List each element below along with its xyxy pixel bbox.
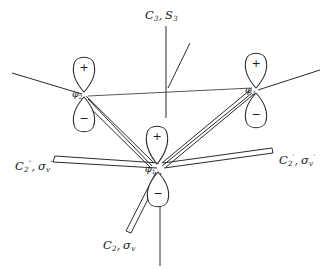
label-c3-s3: C3, S3 [145,10,178,22]
c2-double-prime-axis [53,156,159,168]
s3-axis-line [168,43,190,88]
lobe-sign-phi2-plus: + [78,62,90,73]
frame-phi3-phi1 [162,93,252,166]
figure-canvas: .ln { stroke: #2b2b2b; stroke-width: 1; … [0,0,331,270]
lobe-sign-phi1-plus: + [151,131,163,142]
lobe-sign-phi1-minus: − [152,188,164,199]
lobe-sign-phi3-minus: − [250,109,262,120]
label-c2: C2, σv [103,240,135,252]
c2-prime-axis [163,148,273,168]
label-c2-double-prime: C2″, σv″ [15,160,53,173]
label-orbital-phi1: φ1 [145,164,155,176]
frame-phi2-phi1 [88,99,152,166]
label-c2-prime: C2′, σv′ [279,154,315,167]
label-orbital-phi3: φ3 [245,85,255,97]
lobe-sign-phi2-minus: − [78,113,90,124]
label-orbital-phi2: φ2 [72,89,82,101]
molecular-plane-trace [88,88,252,96]
orbital-symmetry-figure: .ln { stroke: #2b2b2b; stroke-width: 1; … [0,0,331,270]
lobe-sign-phi3-plus: + [250,58,262,69]
bond-extension-upper-right [258,70,320,90]
